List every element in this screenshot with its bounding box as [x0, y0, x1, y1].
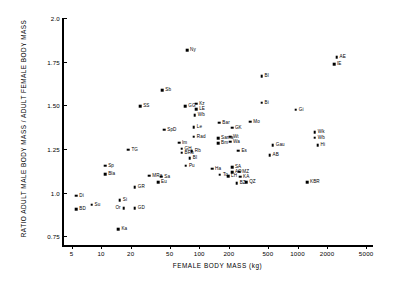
data-point-marker	[260, 101, 263, 104]
data-point-marker	[180, 147, 183, 150]
data-point-label: AB	[273, 153, 279, 158]
x-tick-label: 50	[166, 250, 173, 257]
data-point-label: QZ	[249, 180, 256, 185]
data-point-label: Pu	[189, 163, 195, 168]
data-point-marker	[104, 173, 107, 176]
x-tick-label: 10	[97, 250, 104, 257]
y-tick-label: 0.75	[0, 233, 60, 240]
x-tick-mark	[131, 245, 132, 249]
data-point-marker	[75, 194, 78, 197]
y-tick-mark	[62, 149, 67, 150]
data-point-marker	[211, 167, 214, 170]
data-point-label: Le	[197, 125, 202, 130]
x-tick-mark	[298, 245, 299, 249]
data-point-marker	[314, 131, 317, 134]
data-point-label: TG	[131, 147, 138, 152]
x-tick-mark	[199, 245, 200, 249]
data-point-label: Bl	[265, 74, 269, 79]
data-point-label: Wb	[198, 113, 205, 118]
data-point-marker	[245, 181, 248, 184]
data-point-label: Si	[123, 198, 127, 203]
data-point-label: Eu	[161, 180, 167, 185]
data-point-label: SS	[143, 104, 149, 109]
data-point-marker	[139, 105, 142, 108]
x-tick-label: 1000	[290, 250, 305, 257]
data-point-marker	[195, 108, 198, 111]
data-point-label: Rad	[197, 134, 206, 139]
x-tick-mark	[101, 245, 102, 249]
y-tick-label: 1.75	[0, 58, 60, 65]
data-point-label: GK	[235, 125, 242, 130]
data-point-marker	[127, 149, 130, 152]
data-point-marker	[160, 176, 163, 179]
data-point-marker	[117, 228, 120, 231]
data-point-label: Bi	[265, 100, 269, 105]
data-point-label: Bl	[193, 156, 197, 161]
data-point-marker	[194, 114, 197, 117]
y-axis	[62, 18, 64, 245]
data-point-label: Mo	[253, 119, 260, 124]
data-point-marker	[193, 126, 196, 129]
x-tick-mark	[327, 245, 328, 249]
data-point-label: Hi	[321, 143, 326, 148]
data-point-label: Ha	[215, 166, 221, 171]
data-point-marker	[306, 181, 309, 184]
data-point-label: GD	[138, 206, 145, 211]
y-tick-mark	[62, 18, 67, 19]
data-point-label: GR	[138, 185, 145, 190]
data-point-marker	[148, 174, 151, 177]
data-point-marker	[335, 56, 338, 59]
data-point-label: Bla	[108, 172, 115, 177]
x-tick-label: 500	[262, 250, 273, 257]
data-point-marker	[178, 142, 181, 145]
x-tick-label: 2000	[320, 250, 335, 257]
data-point-marker	[227, 175, 230, 178]
x-tick-mark	[72, 245, 73, 249]
x-tick-label: 100	[194, 250, 205, 257]
data-point-marker	[104, 164, 107, 167]
data-point-marker	[217, 142, 220, 145]
x-axis-title: FEMALE BODY MASS (kg)	[62, 262, 373, 269]
y-tick-label: 2.0	[0, 15, 60, 22]
data-point-marker	[271, 144, 274, 147]
y-tick-label: 1.0	[0, 189, 60, 196]
data-point-label: Wa	[233, 139, 240, 144]
data-point-label: Su	[95, 202, 101, 207]
data-point-label: BD	[79, 207, 86, 212]
data-point-label: LH	[231, 174, 237, 179]
x-tick-mark	[229, 245, 230, 249]
x-tick-label: 5	[70, 250, 74, 257]
data-point-marker	[191, 150, 194, 153]
data-point-marker	[133, 207, 136, 210]
data-point-marker	[229, 140, 232, 143]
data-point-marker	[75, 208, 78, 211]
y-tick-mark	[62, 105, 67, 106]
data-point-marker	[188, 157, 191, 160]
data-point-marker	[239, 175, 242, 178]
data-point-label: Es	[241, 148, 247, 153]
y-axis-title: RATIO ADULT MALE BODY MASS / ADULT FEMAL…	[20, 14, 27, 244]
scatter-chart: 0.751.01.251.501.752.0 51020501002005001…	[0, 0, 396, 284]
data-point-marker	[260, 75, 263, 78]
data-point-label: Sp	[108, 163, 114, 168]
data-point-marker	[184, 105, 187, 108]
data-point-label: Gi	[299, 107, 304, 112]
data-point-label: Rb	[195, 149, 201, 154]
data-point-marker	[231, 126, 234, 129]
data-point-marker	[118, 199, 121, 202]
data-point-label: AE	[340, 55, 346, 60]
x-tick-label: 20	[127, 250, 134, 257]
data-point-label: Ka	[121, 227, 127, 232]
data-point-label: Wb	[318, 135, 325, 140]
data-point-marker	[133, 186, 136, 189]
data-point-marker	[180, 152, 183, 155]
data-point-marker	[195, 102, 198, 105]
data-point-marker	[163, 128, 166, 131]
data-point-marker	[161, 89, 164, 92]
data-point-marker	[186, 49, 189, 52]
data-point-marker	[193, 135, 196, 138]
data-point-marker	[314, 136, 317, 139]
data-point-label: Bar	[222, 120, 229, 125]
data-point-marker	[231, 166, 234, 169]
data-point-label: Gau	[276, 143, 285, 148]
